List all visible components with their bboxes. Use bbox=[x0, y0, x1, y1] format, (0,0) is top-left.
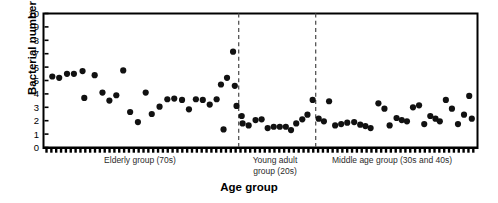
data-point bbox=[164, 96, 170, 102]
y-tick-label-group: 012345678910 bbox=[28, 8, 39, 153]
y-tick-label: 8 bbox=[34, 35, 39, 46]
data-point bbox=[416, 102, 422, 108]
data-point-group bbox=[49, 49, 475, 134]
data-point bbox=[469, 116, 475, 122]
data-point bbox=[230, 49, 236, 55]
data-point bbox=[387, 122, 393, 128]
data-point bbox=[106, 98, 112, 104]
data-point bbox=[186, 106, 192, 112]
data-point bbox=[304, 112, 310, 118]
y-tick-label: 9 bbox=[34, 21, 39, 32]
group-caption-middle: Middle age group (30s and 40s) bbox=[332, 155, 452, 165]
y-tick-label: 1 bbox=[34, 129, 39, 140]
data-point bbox=[79, 68, 85, 74]
data-point bbox=[299, 116, 305, 122]
data-point bbox=[239, 113, 245, 119]
group-caption-group: Elderly group (70s)Young adultgroup (20s… bbox=[104, 155, 452, 176]
data-point bbox=[326, 98, 332, 104]
data-point bbox=[200, 97, 206, 103]
data-point bbox=[375, 100, 381, 106]
data-point bbox=[461, 112, 467, 118]
data-point bbox=[293, 120, 299, 126]
data-point bbox=[421, 121, 427, 127]
data-point bbox=[277, 124, 283, 130]
data-point bbox=[233, 103, 239, 109]
data-point bbox=[252, 117, 258, 123]
data-point bbox=[271, 124, 277, 130]
data-point bbox=[127, 109, 133, 115]
data-point bbox=[246, 122, 252, 128]
data-point bbox=[179, 97, 185, 103]
data-point bbox=[399, 117, 405, 123]
data-point bbox=[357, 122, 363, 128]
data-point bbox=[332, 122, 338, 128]
data-point bbox=[351, 119, 357, 125]
data-point bbox=[368, 125, 374, 131]
data-point bbox=[283, 124, 289, 130]
data-point bbox=[449, 106, 455, 112]
data-point bbox=[64, 71, 70, 77]
y-tick-label: 0 bbox=[34, 142, 39, 153]
data-point bbox=[99, 89, 105, 95]
y-tick-label: 7 bbox=[34, 48, 39, 59]
plot-frame bbox=[44, 14, 478, 149]
group-caption-young-line1: Young adult bbox=[253, 155, 298, 165]
data-point bbox=[120, 67, 126, 73]
data-point bbox=[92, 72, 98, 78]
data-point bbox=[207, 102, 213, 108]
data-point bbox=[171, 95, 177, 101]
data-point bbox=[239, 120, 245, 126]
data-point bbox=[149, 111, 155, 117]
data-point bbox=[410, 104, 416, 110]
data-point bbox=[265, 125, 271, 131]
group-caption-elderly: Elderly group (70s) bbox=[104, 155, 176, 165]
data-point bbox=[381, 106, 387, 112]
data-point bbox=[288, 127, 294, 133]
data-point bbox=[220, 126, 226, 132]
data-point bbox=[81, 95, 87, 101]
y-tick-label: 4 bbox=[34, 88, 39, 99]
data-point bbox=[344, 120, 350, 126]
data-point bbox=[455, 121, 461, 127]
data-point bbox=[71, 71, 77, 77]
chart-figure: Bacterial number (log) 012345678910 Elde… bbox=[0, 0, 498, 203]
data-point bbox=[156, 104, 162, 110]
x-axis-title: Age group bbox=[0, 181, 498, 193]
data-point bbox=[113, 92, 119, 98]
data-point bbox=[56, 75, 62, 81]
group-caption-young-line2: group (20s) bbox=[253, 166, 297, 176]
y-tick-label: 10 bbox=[28, 8, 39, 19]
y-tick-label: 6 bbox=[34, 62, 39, 73]
data-point bbox=[218, 81, 224, 87]
y-tick-label: 2 bbox=[34, 115, 39, 126]
data-point bbox=[193, 96, 199, 102]
y-tick-label: 5 bbox=[34, 75, 39, 86]
data-point bbox=[437, 118, 443, 124]
data-point bbox=[143, 89, 149, 95]
data-point bbox=[404, 118, 410, 124]
data-point bbox=[259, 116, 265, 122]
data-point bbox=[321, 118, 327, 124]
data-point bbox=[135, 119, 141, 125]
data-point bbox=[232, 83, 238, 89]
data-point bbox=[214, 96, 220, 102]
data-point bbox=[466, 93, 472, 99]
data-point bbox=[224, 75, 230, 81]
y-tick-mark-group bbox=[45, 14, 49, 148]
data-point bbox=[443, 97, 449, 103]
data-point bbox=[49, 73, 55, 79]
scatter-plot: 012345678910 Elderly group (70s)Young ad… bbox=[0, 0, 498, 203]
y-tick-label: 3 bbox=[34, 102, 39, 113]
x-tick-mark-group bbox=[44, 148, 478, 153]
data-point bbox=[310, 97, 316, 103]
data-point bbox=[338, 121, 344, 127]
